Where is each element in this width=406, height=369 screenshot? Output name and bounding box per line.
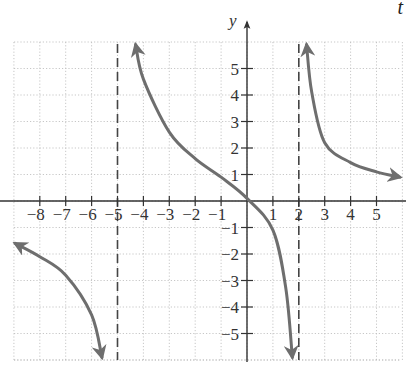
y-tick-label: −3 <box>221 272 239 291</box>
x-tick-label: −3 <box>156 205 174 224</box>
axes <box>0 22 406 362</box>
x-tick-label: −2 <box>182 205 200 224</box>
y-tick-label: −5 <box>221 325 239 344</box>
x-tick-label: 1 <box>269 205 278 224</box>
x-tick-label: −5 <box>104 205 122 224</box>
x-tick-label: −6 <box>79 205 97 224</box>
right-branch <box>307 45 400 178</box>
x-tick-label: −7 <box>53 205 72 224</box>
vertical-asymptotes <box>118 44 299 360</box>
x-tick-label: −8 <box>27 205 45 224</box>
y-tick-label: 5 <box>231 60 240 79</box>
rational-function-graph: −8−7−6−5−4−3−2−11234554321−1−2−3−4−5 y <box>0 0 406 369</box>
x-tick-label: 5 <box>372 205 381 224</box>
y-tick-label: 3 <box>231 113 240 132</box>
x-tick-label: −4 <box>130 205 149 224</box>
y-tick-label: −1 <box>221 219 239 238</box>
x-tick-label: 4 <box>346 205 355 224</box>
y-tick-label: 2 <box>231 139 240 158</box>
y-axis-label: y <box>227 11 237 30</box>
x-tick-label: 3 <box>320 205 329 224</box>
x-tick-label: 2 <box>295 205 304 224</box>
y-tick-label: 4 <box>231 86 240 105</box>
y-tick-label: −4 <box>221 298 240 317</box>
y-tick-label: −2 <box>221 245 239 264</box>
y-tick-label: 1 <box>231 166 240 185</box>
left-branch <box>15 243 102 357</box>
